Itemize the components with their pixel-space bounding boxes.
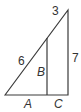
label-right-side: 7 xyxy=(72,51,79,65)
triangle-diagram: 3 6 7 B A C xyxy=(0,0,81,112)
label-base-right: C xyxy=(54,97,63,111)
label-top-segment: 3 xyxy=(52,4,59,18)
label-hypotenuse-lower: 6 xyxy=(18,54,25,68)
outer-triangle xyxy=(5,10,68,95)
label-inner-vertical: B xyxy=(37,65,45,79)
label-base-left: A xyxy=(23,97,32,111)
